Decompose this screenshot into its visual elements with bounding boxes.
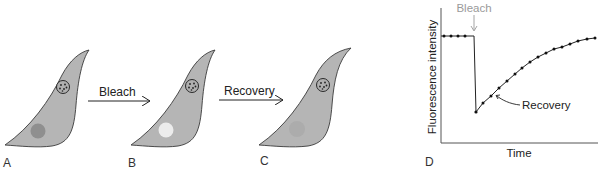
nucleus-icon <box>186 80 199 93</box>
panel-label-a: A <box>3 156 11 170</box>
fluorescent-spot <box>31 124 46 139</box>
bleach-annotation: Bleach <box>456 2 491 14</box>
cell-a <box>5 50 89 147</box>
panel-label-d: D <box>425 155 434 169</box>
recovery-pointer <box>497 96 520 105</box>
recovery-arrow-label: Recovery <box>224 84 275 98</box>
nucleus-icon <box>317 79 330 92</box>
recovery-annotation: Recovery <box>522 99 571 111</box>
frap-figure: A Bleach B Recovery <box>0 0 601 170</box>
pre-bleach-line <box>441 36 476 112</box>
cell-a-body <box>5 50 89 147</box>
recovery-arrow: Recovery <box>219 84 283 100</box>
cell-b <box>131 50 215 147</box>
panel-label-b: B <box>128 156 136 170</box>
panel-label-c: C <box>260 154 269 168</box>
x-axis-label: Time <box>506 147 531 159</box>
bleach-pointer-arrow <box>471 15 477 31</box>
bleach-arrow: Bleach <box>88 85 150 101</box>
bleached-spot <box>159 123 174 138</box>
bleach-arrow-label: Bleach <box>99 85 136 99</box>
y-axis-label: Fluorescence intensity <box>426 20 438 135</box>
frap-graph: Fluorescence intensity Time Bleach <box>426 2 598 159</box>
recovered-spot <box>289 121 305 137</box>
nucleus-icon <box>57 81 70 94</box>
data-points <box>443 35 597 114</box>
